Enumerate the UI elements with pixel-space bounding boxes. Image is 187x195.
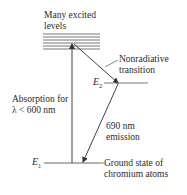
nonradiative-label: Nonradiative transition xyxy=(119,54,169,75)
ground-state-line2: chromium atoms xyxy=(104,169,168,180)
absorption-line2: λ < 600 nm xyxy=(12,105,68,116)
excited-levels-line1: Many excited xyxy=(44,10,96,21)
excited-levels-line2: levels xyxy=(44,21,96,32)
e1-symbol: E1 xyxy=(32,156,41,169)
e2-subscript: 2 xyxy=(99,82,102,89)
e1-subscript: 1 xyxy=(38,162,41,169)
nonradiative-line1: Nonradiative xyxy=(119,54,169,65)
emission-line1: 690 nm xyxy=(106,121,140,132)
absorption-line1: Absorption for xyxy=(12,94,68,105)
absorption-label: Absorption for λ < 600 nm xyxy=(12,94,68,115)
ground-state-label: Ground state of chromium atoms xyxy=(104,158,168,179)
emission-label: 690 nm emission xyxy=(106,121,140,142)
excited-levels-label: Many excited levels xyxy=(44,10,96,31)
emission-line2: emission xyxy=(106,132,140,143)
e2-symbol: E2 xyxy=(93,76,102,89)
ground-state-line1: Ground state of xyxy=(104,158,168,169)
nonradiative-line2: transition xyxy=(119,65,169,76)
nonradiative-leader xyxy=(105,60,118,67)
